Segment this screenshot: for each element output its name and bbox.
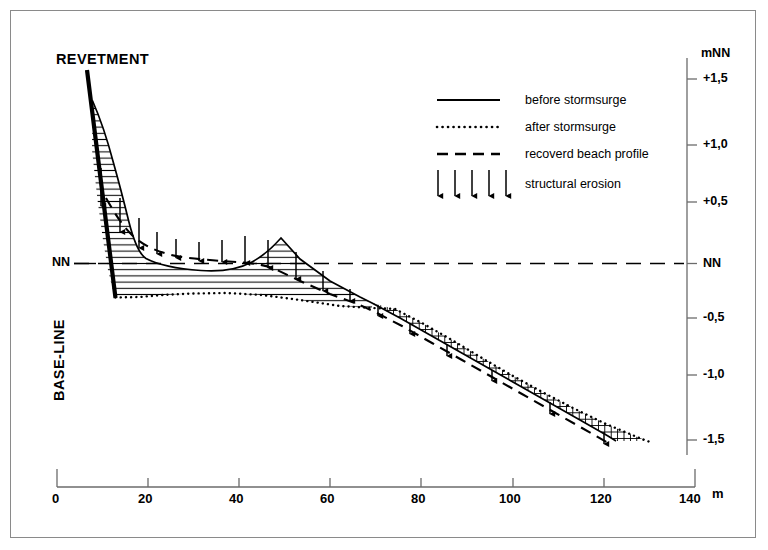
x-tick-label-6: 100 (499, 491, 521, 506)
y-tick-label-3: +0,5 (703, 194, 728, 208)
x-tick-label-1: 0 (52, 491, 59, 506)
legend-glyphs (437, 100, 506, 196)
figure-page: REVETMENT BASE-LINE NN mNN +1,5 +1,0 +0,… (0, 0, 768, 550)
nn-left-label: NN (52, 255, 70, 269)
accretion-zone-fill (372, 303, 648, 441)
x-tick-label-8: 140 (679, 491, 701, 506)
y-tick-label-4: NN (703, 256, 721, 270)
x-axis-unit-label: m (712, 486, 724, 501)
x-tick-label-2: 20 (138, 491, 152, 506)
x-tick-label-5: 80 (411, 491, 425, 506)
y-tick-label-2: +1,0 (703, 137, 728, 151)
x-tick-label-7: 120 (590, 491, 612, 506)
legend-label-after-stormsurge: after stormsurge (525, 120, 616, 134)
y-tick-label-5: -0,5 (703, 310, 725, 324)
revetment-label: REVETMENT (56, 51, 149, 67)
y-axis (687, 58, 697, 455)
y-axis-unit-label: mNN (701, 46, 730, 60)
series-recoverd-beach-profile (106, 198, 610, 444)
legend-arrows-swatch (438, 170, 506, 196)
baseline-label: BASE-LINE (51, 300, 67, 420)
profile-chart-svg (0, 0, 768, 550)
legend-label-recoverd-beach-profile: recoverd beach profile (525, 147, 649, 161)
y-tick-label-7: -1,5 (703, 432, 725, 446)
legend-label-before-stormsurge: before stormsurge (525, 93, 626, 107)
x-tick-label-3: 40 (229, 491, 243, 506)
y-tick-label-1: +1,5 (703, 71, 728, 85)
x-tick-label-4: 60 (320, 491, 334, 506)
x-axis (57, 469, 695, 487)
erosion-zone-fill (92, 101, 372, 309)
y-tick-label-6: -1,0 (703, 367, 725, 381)
legend-label-structural-erosion: structural erosion (525, 177, 621, 191)
